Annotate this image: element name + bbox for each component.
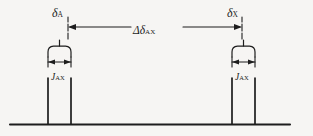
splitting-tree-x [232, 40, 255, 57]
delta-separation-subscript: AX [145, 28, 156, 36]
coupling-left-subscript: AX [55, 74, 65, 81]
coupling-constant-label-right: JAX [235, 67, 249, 83]
spectrum-peaks [48, 78, 255, 124]
nmr-ax-spectrum-figure: δA δX ΔδAX JAX JAX [0, 0, 313, 136]
splitting-tree-a [48, 40, 71, 57]
coupling-right-subscript: AX [239, 74, 249, 81]
delta-x-label: δX [227, 4, 238, 20]
delta-x-subscript: X [233, 10, 239, 19]
delta-a-subscript: A [58, 10, 64, 19]
coupling-constant-label-left: JAX [51, 67, 65, 83]
delta-separation-symbol: Δδ [133, 24, 145, 36]
delta-a-label: δA [52, 4, 63, 20]
nmr-diagram-canvas [0, 0, 313, 136]
delta-separation-label: ΔδAX [133, 21, 156, 37]
